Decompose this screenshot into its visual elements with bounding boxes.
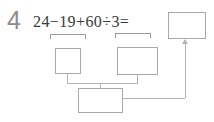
worksheet-problem: 4 24−19+60÷3= (0, 0, 214, 122)
connector-step1-down (67, 74, 68, 83)
step-box-first-operation[interactable] (55, 48, 81, 74)
problem-number: 4 (7, 8, 21, 33)
bracket-second-operation (115, 33, 151, 38)
connector-step3-right (123, 98, 185, 99)
connector-join-bar (67, 83, 138, 84)
connector-into-step3 (100, 83, 101, 88)
answer-box[interactable] (168, 12, 206, 39)
connector-step2-down (137, 75, 138, 83)
bracket-first-operation (50, 34, 86, 39)
arrow-into-answer-icon (182, 39, 188, 44)
step-box-second-operation[interactable] (117, 47, 158, 75)
math-expression: 24−19+60÷3= (33, 13, 129, 31)
step-box-combined-result[interactable] (78, 88, 123, 113)
connector-up-to-answer (185, 44, 186, 98)
